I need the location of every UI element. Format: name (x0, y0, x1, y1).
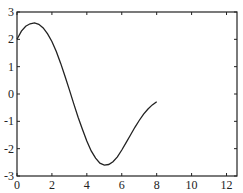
y-tick-label: -2 (4, 142, 14, 156)
x-tick-label: 0 (14, 178, 20, 192)
data-line (17, 23, 157, 165)
x-tick-label: 4 (84, 178, 90, 192)
tick-labels: 024681012-3-2-10123 (4, 5, 233, 192)
line-chart: 024681012-3-2-10123 (0, 0, 243, 193)
x-tick-label: 2 (49, 178, 55, 192)
y-tick-label: -1 (4, 114, 14, 128)
x-tick-label: 8 (154, 178, 160, 192)
plot-frame (17, 12, 237, 176)
y-tick-label: 3 (8, 5, 14, 19)
x-tick-label: 6 (119, 178, 125, 192)
y-tick-label: 2 (8, 32, 14, 46)
y-tick-label: 0 (8, 87, 14, 101)
x-tick-label: 12 (221, 178, 233, 192)
y-tick-label: 1 (8, 60, 14, 74)
axis-ticks (17, 12, 237, 176)
y-tick-label: -3 (4, 169, 14, 183)
x-tick-label: 10 (186, 178, 198, 192)
